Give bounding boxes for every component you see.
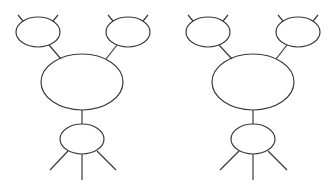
top-right-node: [106, 17, 150, 47]
top-right-node: [276, 17, 320, 47]
antenna-line: [188, 15, 193, 21]
antenna-line: [108, 15, 113, 21]
antenna-line: [313, 15, 318, 21]
connector-line: [106, 45, 117, 59]
antenna-line: [18, 15, 23, 21]
leg-line: [268, 151, 287, 170]
center-node: [41, 54, 123, 110]
antenna-line: [278, 15, 283, 21]
bottom-node: [60, 124, 104, 154]
figure-left: [16, 15, 150, 180]
connector-line: [219, 45, 232, 59]
antenna-line: [223, 15, 228, 21]
antenna-line: [53, 15, 58, 21]
leg-line: [97, 151, 116, 170]
diagram-canvas: [0, 0, 332, 189]
antenna-line: [143, 15, 148, 21]
top-left-node: [186, 17, 230, 47]
figure-right: [186, 15, 320, 180]
center-node: [212, 54, 294, 110]
connector-line: [49, 45, 61, 59]
bottom-node: [231, 124, 275, 154]
leg-line: [50, 151, 68, 170]
leg-line: [220, 151, 239, 170]
connector-line: [276, 45, 287, 59]
top-left-node: [16, 17, 60, 47]
